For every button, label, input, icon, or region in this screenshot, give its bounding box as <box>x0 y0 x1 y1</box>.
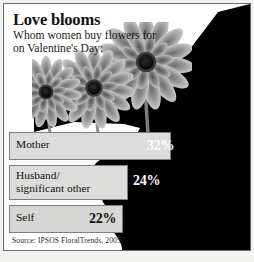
bar-label-husband-line1: Husband/ <box>16 169 60 181</box>
bar-label-mother: Mother <box>16 138 50 151</box>
subtitle: Whom women buy flowers for on Valentine'… <box>13 29 163 55</box>
infographic-root: Love blooms Whom women buy flowers for o… <box>0 0 254 262</box>
table-row[interactable]: Mother 32% <box>9 132 245 160</box>
table-row[interactable]: Self 22% <box>9 205 245 233</box>
bar-label-self: Self <box>16 211 34 224</box>
bar-value-husband: 24% <box>133 173 160 189</box>
source-note: Source: IPSOS FloralTrends, 2005 <box>12 236 121 245</box>
table-row[interactable]: Husband/ significant other 24% <box>9 165 245 200</box>
bar-value-self: 22% <box>89 211 116 227</box>
infographic-frame: Love blooms Whom women buy flowers for o… <box>3 3 251 251</box>
bar-label-husband: Husband/ significant other <box>16 169 90 195</box>
bar-chart: Mother 32% Husband/ significant other 24… <box>9 132 245 238</box>
page-title: Love blooms <box>13 11 100 28</box>
bar-label-husband-line2: significant other <box>16 182 90 194</box>
bar-value-mother: 32% <box>147 138 174 154</box>
